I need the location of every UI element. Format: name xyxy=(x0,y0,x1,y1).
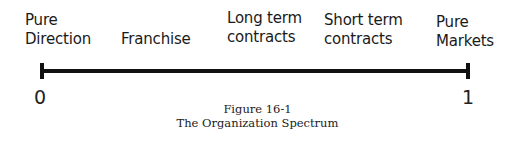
label-line: Markets xyxy=(436,32,494,51)
label-line: Long term xyxy=(227,9,302,28)
figure-number: Figure 16-1 xyxy=(0,102,515,116)
label-line: Short term xyxy=(324,11,403,30)
right-end-tick xyxy=(466,63,470,79)
label-line: Direction xyxy=(25,30,91,49)
label-franchise: Franchise xyxy=(121,30,191,49)
label-long-term-contracts: Long term contracts xyxy=(227,9,302,47)
label-pure-direction: Pure Direction xyxy=(25,11,91,49)
figure-title: The Organization Spectrum xyxy=(0,116,515,130)
label-line: Pure xyxy=(25,11,91,30)
label-line: contracts xyxy=(324,30,403,49)
label-line: contracts xyxy=(227,28,302,47)
label-line: Pure xyxy=(436,13,494,32)
spectrum-line xyxy=(42,69,469,73)
label-line: Franchise xyxy=(121,30,191,49)
label-pure-markets: Pure Markets xyxy=(436,13,494,51)
label-short-term-contracts: Short term contracts xyxy=(324,11,403,49)
